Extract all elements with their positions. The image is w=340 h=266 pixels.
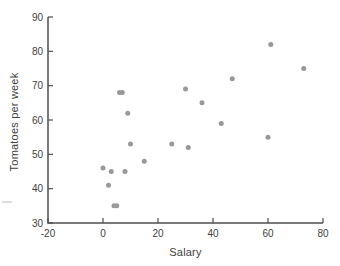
data-point bbox=[123, 169, 128, 174]
data-point bbox=[125, 111, 130, 116]
data-point bbox=[200, 100, 205, 105]
data-point bbox=[186, 145, 191, 150]
data-point bbox=[106, 183, 111, 188]
y-tick-label: 90 bbox=[32, 12, 44, 23]
y-tick-label: 80 bbox=[32, 46, 44, 57]
data-point bbox=[183, 87, 188, 92]
x-tick-label: 20 bbox=[152, 228, 164, 239]
y-tick-label: 70 bbox=[32, 80, 44, 91]
data-point bbox=[219, 121, 224, 126]
data-point bbox=[114, 203, 119, 208]
x-tick-label: -20 bbox=[41, 228, 56, 239]
y-tick-label: 30 bbox=[32, 218, 44, 229]
data-point bbox=[266, 135, 271, 140]
data-point bbox=[128, 142, 133, 147]
axis-frame bbox=[48, 17, 323, 223]
data-point bbox=[301, 66, 306, 71]
data-point bbox=[169, 142, 174, 147]
y-axis-title: Tomatoes per week bbox=[7, 72, 21, 172]
data-point bbox=[268, 42, 273, 47]
data-point bbox=[230, 76, 235, 81]
data-point bbox=[120, 90, 125, 95]
plot-area: 30405060708090-20020406080 bbox=[0, 0, 340, 266]
data-point bbox=[101, 166, 106, 171]
y-tick-label: 40 bbox=[32, 183, 44, 194]
x-axis-title: Salary bbox=[48, 246, 323, 258]
x-tick-label: 80 bbox=[317, 228, 329, 239]
scan-artifact bbox=[2, 201, 12, 203]
x-tick-label: 60 bbox=[262, 228, 274, 239]
data-point bbox=[109, 169, 114, 174]
scatter-figure: 30405060708090-20020406080 Tomatoes per … bbox=[0, 0, 340, 266]
y-tick-label: 60 bbox=[32, 115, 44, 126]
data-point bbox=[142, 159, 147, 164]
x-tick-label: 0 bbox=[100, 228, 106, 239]
x-tick-label: 40 bbox=[207, 228, 219, 239]
y-tick-label: 50 bbox=[32, 149, 44, 160]
